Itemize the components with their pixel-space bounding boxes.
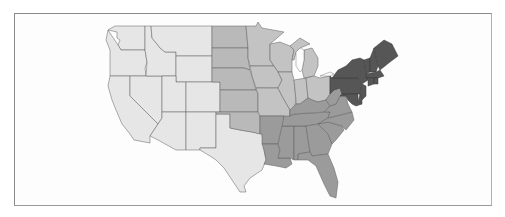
lake-erie	[320, 72, 334, 76]
state-ri[interactable]	[374, 78, 378, 84]
state-nm[interactable]	[186, 112, 216, 150]
state-co[interactable]	[186, 82, 220, 112]
state-nd[interactable]	[212, 26, 248, 48]
region-northeast	[330, 40, 398, 106]
state-ks[interactable]	[220, 90, 258, 112]
state-ct[interactable]	[366, 78, 374, 86]
state-wy[interactable]	[176, 56, 212, 82]
state-oh[interactable]	[306, 76, 330, 102]
us-region-map	[0, 0, 505, 217]
state-fl[interactable]	[298, 152, 338, 198]
state-sd[interactable]	[212, 48, 250, 70]
